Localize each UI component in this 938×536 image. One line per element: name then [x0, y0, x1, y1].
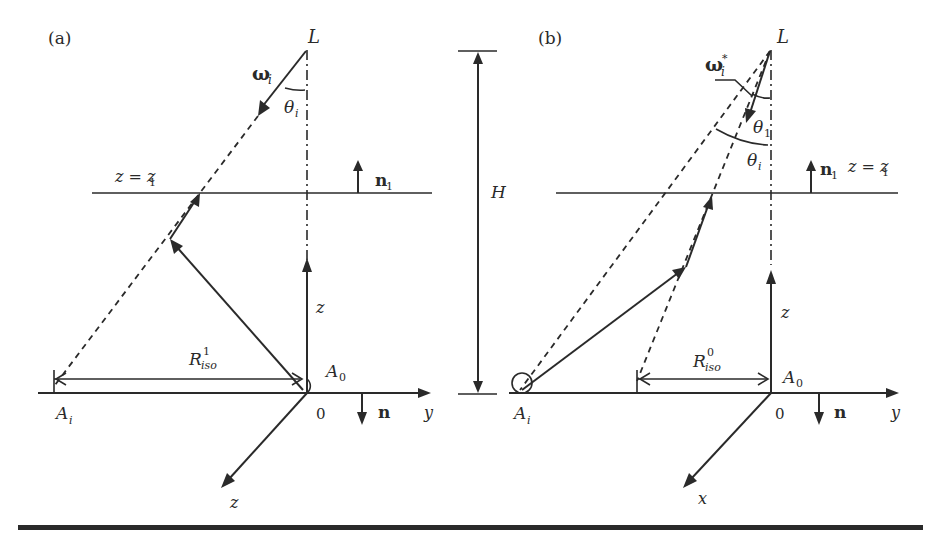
height-marker: H: [458, 51, 507, 394]
panel-b-radius-sub: iso: [705, 361, 721, 374]
panel-b-y-axis-arrowhead-icon: [886, 388, 899, 398]
panel-b-n1-arrowhead-icon: [806, 160, 816, 171]
panel-a-z-axis-label: z: [315, 298, 325, 317]
panel-b-thetai-label: θ: [747, 150, 757, 170]
diagram-canvas: (a) L ω i θ i z = z 1 n 1 z: [0, 0, 938, 536]
panel-b-theta1-sub: 1: [764, 127, 771, 140]
panel-a: (a) L ω i θ i z = z 1 n 1 z: [38, 26, 434, 512]
panel-b-z-axis-label: z: [780, 303, 790, 322]
panel-b-source-label: L: [776, 26, 789, 47]
panel-b-y-axis-label: y: [890, 403, 901, 422]
panel-b-diagonal-axis-label: x: [698, 489, 707, 508]
panel-a-y-axis-arrowhead-icon: [418, 388, 431, 398]
panel-b-n-label: n: [834, 402, 846, 422]
panel-a-a0-sub: 0: [339, 371, 346, 384]
panel-b-n-arrowhead-icon: [814, 412, 824, 425]
panel-b-path-segment-2: [686, 206, 708, 267]
panel-b-omega-arrow: [750, 51, 770, 113]
panel-b-z-axis-arrowhead-icon: [766, 270, 776, 284]
panel-b-dashed-line-outer: [520, 51, 770, 390]
panel-a-ai-sub: i: [69, 414, 73, 427]
panel-a-source-label: L: [307, 26, 320, 47]
panel-a-theta-sub: i: [295, 107, 299, 120]
panel-a-n1-sub: 1: [386, 180, 393, 193]
panel-a-y-axis-label: y: [423, 403, 434, 422]
panel-a-dashed-projection: [55, 116, 258, 385]
panel-b-omega-sup: *: [722, 52, 728, 65]
height-arrowhead-bottom-icon: [473, 381, 483, 393]
panel-a-a0-label: A: [324, 361, 338, 381]
panel-a-n-arrowhead-icon: [357, 412, 367, 425]
panel-a-tag: (a): [48, 28, 71, 48]
panel-a-diagonal-axis-label: z: [229, 493, 239, 512]
bottom-rule: [18, 525, 923, 530]
panel-b-plane-sub: 1: [882, 166, 889, 179]
panel-a-n1-arrowhead-icon: [353, 160, 363, 171]
panel-b: (b) L ω i * θ 1 θ i z = z 1 n 1: [509, 26, 901, 508]
panel-b-tag: (b): [538, 28, 562, 48]
panel-b-path-arrowhead-2-icon: [703, 196, 713, 210]
panel-b-path-arrowhead-1-icon: [672, 267, 686, 279]
panel-a-omega-sub: i: [268, 73, 272, 87]
panel-a-plane-sub: 1: [149, 176, 156, 189]
panel-b-theta1-label: θ: [753, 117, 763, 137]
panel-b-radius-sup: 0: [707, 346, 714, 359]
panel-b-origin-label: 0: [775, 405, 785, 423]
panel-b-omega-leader-line: [715, 80, 752, 96]
panel-a-radius-label: R: [188, 349, 202, 369]
panel-b-path-segment-1: [522, 273, 678, 390]
panel-a-radius-sup: 1: [203, 345, 210, 358]
panel-b-a0-sub: 0: [796, 377, 803, 390]
height-label: H: [490, 182, 507, 202]
panel-a-theta-label: θ: [284, 97, 294, 117]
panel-b-n1-sub: 1: [831, 169, 838, 182]
panel-a-diagonal-axis: [229, 393, 307, 479]
panel-b-diagonal-axis: [691, 393, 771, 479]
panel-a-ai-label: A: [54, 403, 68, 423]
panel-a-n-label: n: [378, 402, 390, 422]
panel-b-radius-label: R: [692, 351, 706, 371]
panel-b-a0-label: A: [781, 367, 795, 387]
panel-b-ai-sub: i: [527, 414, 531, 427]
panel-a-path-segment-2: [170, 201, 195, 239]
panel-a-theta-arc: [285, 88, 305, 90]
height-arrowhead-top-icon: [473, 52, 483, 64]
panel-a-omega-arrowhead-icon: [258, 100, 270, 116]
panel-b-omega-sub: i: [721, 65, 725, 79]
panel-a-origin-label: 0: [316, 405, 326, 423]
panel-b-ai-label: A: [512, 403, 526, 423]
panel-a-radius-sub: iso: [201, 359, 217, 372]
panel-a-z-axis-arrowhead-icon: [302, 258, 312, 272]
panel-b-thetai-sub: i: [758, 160, 762, 173]
